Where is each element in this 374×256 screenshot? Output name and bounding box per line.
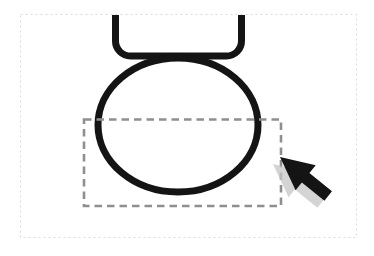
illustration-canvas	[0, 0, 374, 256]
rounded-rectangle-shape	[116, 0, 242, 56]
ellipse-shape	[98, 58, 258, 192]
figure	[0, 0, 374, 256]
canvas-border	[21, 15, 357, 238]
